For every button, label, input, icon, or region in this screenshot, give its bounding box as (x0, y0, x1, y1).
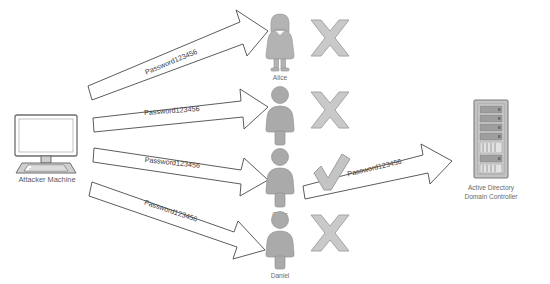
password-spray-diagram: Password123456 Password123456 Password12… (0, 0, 550, 284)
x-mark-icon-alice (311, 20, 349, 56)
attack-arrow-bob: Password123456 (93, 89, 268, 132)
attack-arrow-alice: Password123456 (88, 10, 268, 100)
user-node-alice: Alice (266, 14, 349, 81)
server-rack-icon (474, 100, 508, 178)
arrow-shape-chris (93, 148, 268, 196)
domain-controller-node: Active Directory Domain Controller (464, 100, 518, 200)
x-mark-icon-bob (311, 92, 349, 128)
attack-arrow-daniel: Password123456 (89, 182, 265, 259)
domain-controller-label-line2: Domain Controller (464, 193, 518, 200)
x-mark-icon-daniel (311, 215, 349, 251)
user-node-daniel: Daniel (266, 212, 349, 280)
arrow-shape-auth (303, 144, 452, 199)
diagram-canvas: Password123456 Password123456 Password12… (0, 0, 550, 284)
arrow-shape-daniel (89, 182, 265, 259)
user-label-alice: Alice (273, 74, 288, 81)
male-user-icon-chris (266, 149, 294, 208)
attacker-machine-node: Attacker Machine (15, 115, 77, 184)
user-node-bob: Bob (266, 87, 349, 157)
auth-arrow-to-domain-controller: Password123456 (303, 144, 452, 199)
attack-arrow-chris: Password123456 (93, 148, 268, 196)
desktop-computer-icon (15, 115, 77, 173)
attacker-machine-label: Attacker Machine (18, 175, 75, 184)
user-label-daniel: Daniel (271, 272, 290, 279)
female-user-icon (266, 14, 294, 71)
domain-controller-label-line1: Active Directory (468, 184, 515, 192)
male-user-icon (266, 87, 294, 146)
male-user-icon-daniel (266, 212, 294, 270)
